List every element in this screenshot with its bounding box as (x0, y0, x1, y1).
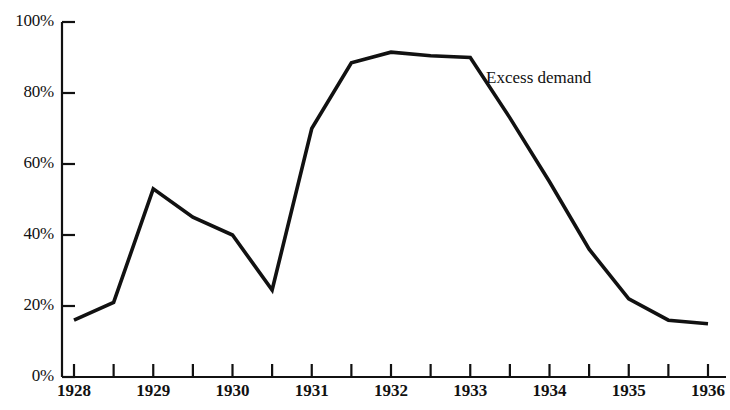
x-tick-label-1928: 1928 (57, 381, 91, 401)
excess-demand-line-chart: 0%20%40%60%80%100% 192819291930193119321… (0, 0, 730, 410)
y-tick-label-80: 80% (0, 82, 54, 102)
y-tick-label-40: 40% (0, 224, 54, 244)
x-tick-label-1934: 1934 (533, 381, 567, 401)
x-tick-label-1930: 1930 (216, 381, 250, 401)
y-axis-ticks (62, 22, 75, 377)
x-tick-label-1933: 1933 (453, 381, 487, 401)
excess-demand-line (74, 52, 708, 324)
x-tick-label-1931: 1931 (295, 381, 329, 401)
y-tick-label-100: 100% (0, 11, 54, 31)
x-axis-ticks (74, 364, 708, 377)
x-tick-label-1929: 1929 (136, 381, 170, 401)
x-tick-label-1936: 1936 (691, 381, 725, 401)
x-tick-label-1935: 1935 (612, 381, 646, 401)
plot-area (0, 0, 730, 410)
y-tick-label-0: 0% (0, 366, 54, 386)
axes (62, 22, 726, 377)
y-tick-label-60: 60% (0, 153, 54, 173)
series-label-excess-demand: Excess demand (486, 68, 591, 88)
y-tick-label-20: 20% (0, 295, 54, 315)
x-tick-label-1932: 1932 (374, 381, 408, 401)
